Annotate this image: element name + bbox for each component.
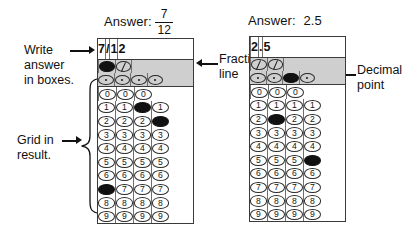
digit-5-bubble[interactable]: 5 — [304, 155, 321, 166]
digit-3-bubble[interactable]: 3 — [268, 127, 285, 138]
digit-0-bubble[interactable]: 0 — [135, 89, 152, 100]
digit-4-bubble[interactable]: 4 — [304, 141, 321, 152]
digit-5-bubble[interactable]: 5 — [116, 157, 133, 168]
digit-9-bubble[interactable]: 9 — [304, 209, 321, 220]
digit-3-bubble[interactable]: 3 — [116, 129, 133, 140]
digit-8-bubble[interactable]: 8 — [268, 195, 285, 206]
digit-9-bubble[interactable]: 9 — [286, 209, 303, 220]
digit-6-bubble[interactable]: 6 — [286, 168, 303, 179]
digit-2-bubble[interactable]: 2 — [152, 116, 169, 127]
digit-5-bubble[interactable]: 5 — [152, 157, 169, 168]
digit-5-bubble[interactable]: 5 — [134, 157, 151, 168]
grid-cell: 4 — [98, 142, 116, 156]
answer-write-cell[interactable]: 1 — [110, 39, 118, 59]
digit-7-bubble[interactable]: 7 — [268, 182, 285, 193]
answer-write-cell[interactable]: 2 — [118, 39, 125, 59]
digit-0-bubble[interactable]: 0 — [269, 87, 286, 98]
digit-2-bubble[interactable]: 2 — [98, 116, 115, 127]
digit-9-bubble[interactable]: 9 — [152, 211, 169, 222]
answer-grid-fraction[interactable]: 7/12000111122223333444455556666777788889… — [97, 38, 194, 224]
digit-8-bubble[interactable]: 8 — [98, 197, 115, 208]
digit-7-bubble[interactable]: 7 — [152, 184, 169, 195]
digit-9-bubble[interactable]: 9 — [134, 211, 151, 222]
digit-4-bubble[interactable]: 4 — [268, 141, 285, 152]
digit-1-bubble[interactable]: 1 — [134, 102, 151, 113]
digit-5-bubble[interactable]: 5 — [268, 155, 285, 166]
digit-8-bubble[interactable]: 8 — [286, 195, 303, 206]
digit-row-0: 000 — [250, 85, 345, 99]
digit-3-bubble[interactable]: 3 — [286, 127, 303, 138]
digit-9-bubble[interactable]: 9 — [116, 211, 133, 222]
digit-9-bubble[interactable]: 9 — [250, 209, 267, 220]
digit-2-bubble[interactable]: 2 — [116, 116, 133, 127]
digit-0-bubble[interactable]: 0 — [99, 89, 116, 100]
digit-6-bubble[interactable]: 6 — [304, 168, 321, 179]
digit-5-bubble[interactable]: 5 — [286, 155, 303, 166]
digit-1-bubble[interactable]: 1 — [250, 100, 267, 111]
digit-8-bubble[interactable]: 8 — [304, 195, 321, 206]
fraction-line-bubble[interactable] — [251, 59, 267, 69]
digit-0-bubble[interactable]: 0 — [117, 89, 134, 100]
digit-7-bubble[interactable]: 7 — [134, 184, 151, 195]
digit-4-bubble[interactable]: 4 — [250, 141, 267, 152]
digit-3-bubble[interactable]: 3 — [152, 129, 169, 140]
digit-8-bubble[interactable]: 8 — [134, 197, 151, 208]
digit-2-bubble[interactable]: 2 — [304, 114, 321, 125]
digit-5-bubble[interactable]: 5 — [250, 155, 267, 166]
digit-6-bubble[interactable]: 6 — [98, 170, 115, 181]
digit-9-bubble[interactable]: 9 — [268, 209, 285, 220]
digit-8-bubble[interactable]: 8 — [152, 197, 169, 208]
digit-7-bubble[interactable]: 7 — [286, 182, 303, 193]
digit-8-bubble[interactable]: 8 — [116, 197, 133, 208]
digit-2-bubble[interactable]: 2 — [286, 114, 303, 125]
digit-9-bubble[interactable]: 9 — [98, 211, 115, 222]
digit-1-bubble[interactable]: 1 — [268, 100, 285, 111]
digit-0-bubble[interactable]: 0 — [251, 87, 268, 98]
digit-3-bubble[interactable]: 3 — [304, 127, 321, 138]
digit-1-bubble[interactable]: 1 — [286, 100, 303, 111]
fraction-line-bubble[interactable] — [116, 61, 132, 71]
digit-1-bubble[interactable]: 1 — [304, 100, 321, 111]
digit-1-bubble[interactable]: 1 — [98, 102, 115, 113]
digit-1-bubble[interactable]: 1 — [152, 102, 169, 113]
digit-1-bubble[interactable]: 1 — [116, 102, 133, 113]
answer-grid-decimal[interactable]: 2.50001111222233334444555566667777888899… — [249, 36, 346, 222]
answer-write-cell[interactable]: 5 — [263, 37, 270, 57]
digit-4-bubble[interactable]: 4 — [116, 143, 133, 154]
decimal-point-bubble[interactable] — [300, 73, 316, 83]
digit-4-bubble[interactable]: 4 — [286, 141, 303, 152]
digit-5-bubble[interactable]: 5 — [98, 157, 115, 168]
digit-7-bubble[interactable]: 7 — [250, 182, 267, 193]
decimal-point-bubble[interactable] — [148, 75, 164, 85]
digit-6-bubble[interactable]: 6 — [116, 170, 133, 181]
answer-write-cell[interactable]: 7 — [98, 39, 106, 59]
decimal-point-bubble[interactable] — [115, 75, 131, 85]
digit-6-bubble[interactable]: 6 — [268, 168, 285, 179]
digit-2-bubble[interactable]: 2 — [250, 114, 267, 125]
digit-3-bubble[interactable]: 3 — [98, 129, 115, 140]
fraction-line-bubble[interactable] — [99, 61, 115, 71]
digit-7-bubble[interactable]: 7 — [116, 184, 133, 195]
digit-4-bubble[interactable]: 4 — [98, 143, 115, 154]
digit-6-bubble[interactable]: 6 — [134, 170, 151, 181]
fraction-line-bubble[interactable] — [268, 59, 284, 69]
digit-0-bubble[interactable]: 0 — [287, 87, 304, 98]
digit-8-bubble[interactable]: 8 — [250, 195, 267, 206]
digit-6-bubble[interactable]: 6 — [250, 168, 267, 179]
digit-2-bubble[interactable]: 2 — [134, 116, 151, 127]
decimal-point-bubble[interactable] — [283, 73, 299, 83]
decimal-point-bubble[interactable] — [131, 75, 147, 85]
digit-6-bubble[interactable]: 6 — [152, 170, 169, 181]
decimal-point-bubble[interactable] — [98, 75, 114, 85]
digit-4-bubble[interactable]: 4 — [134, 143, 151, 154]
digit-7-bubble[interactable]: 7 — [98, 184, 115, 195]
digit-3-bubble[interactable]: 3 — [134, 129, 151, 140]
digit-2-bubble[interactable]: 2 — [268, 114, 285, 125]
decimal-point-bubble[interactable] — [250, 73, 266, 83]
digit-7-bubble[interactable]: 7 — [304, 182, 321, 193]
digit-4-bubble[interactable]: 4 — [152, 143, 169, 154]
decimal-point-bubble[interactable] — [267, 73, 283, 83]
answer-write-cell[interactable]: 2 — [251, 37, 259, 57]
digit-3-bubble[interactable]: 3 — [250, 127, 267, 138]
bubble-digit-label: 0 — [141, 90, 146, 99]
